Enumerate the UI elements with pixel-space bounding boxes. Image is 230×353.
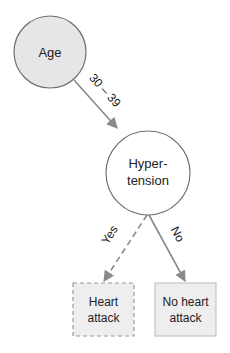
edge-label-30-39: 30 – 39 (86, 71, 123, 110)
leaf-heart-attack-line2: attack (87, 311, 120, 325)
node-hypertension-label-line2: tension (127, 173, 169, 188)
node-age-label: Age (38, 45, 61, 60)
edge-label-no: No (168, 224, 188, 244)
edge-hypertension-to-heart-attack: Yes (98, 215, 147, 281)
leaf-no-heart-attack-line1: No heart (162, 295, 209, 309)
node-hypertension: Hyper- tension (106, 131, 190, 215)
node-age: Age (14, 16, 86, 88)
edge-age-to-hypertension: 30 – 39 (74, 71, 124, 128)
leaf-no-heart-attack: No heart attack (155, 283, 216, 336)
leaf-heart-attack-line1: Heart (89, 295, 119, 309)
leaf-no-heart-attack-line2: attack (169, 311, 202, 325)
leaf-heart-attack: Heart attack (73, 283, 134, 336)
node-hypertension-label-line1: Hyper- (128, 156, 167, 171)
decision-tree-diagram: 30 – 39 Yes No Age Hyper- tension Heart … (0, 0, 230, 353)
edge-hypertension-to-no-heart-attack: No (149, 215, 187, 281)
edge-label-yes: Yes (98, 223, 120, 247)
